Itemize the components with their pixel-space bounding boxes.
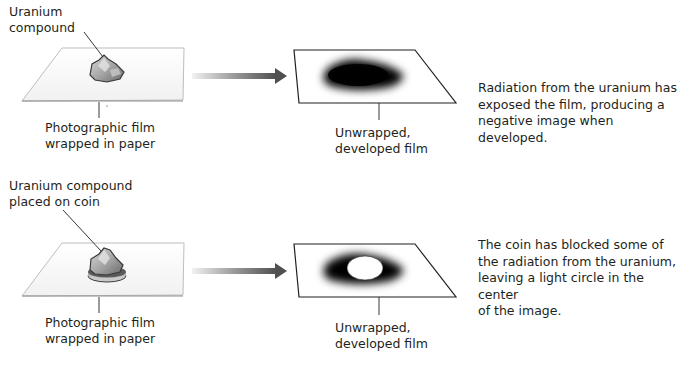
uranium-on-coin-label: Uranium compound placed on coin: [9, 178, 132, 210]
label-line: Unwrapped,: [335, 125, 428, 141]
description-line: the radiation from the uranium,: [478, 254, 683, 271]
row-2-developed-film: [294, 244, 456, 315]
description-line: leaving a light circle in the center: [478, 270, 683, 303]
row-1-wrapped-film: [22, 32, 184, 118]
row-2-wrapped-film: [22, 210, 184, 313]
row-2-arrow: [192, 263, 287, 279]
photographic-film-label: Photographic film wrapped in paper: [44, 315, 156, 347]
description-line: Radiation from the uranium has: [478, 80, 683, 97]
coin-shadow-light-circle: [347, 256, 383, 280]
label-line: Uranium compound: [9, 178, 132, 194]
label-line: Unwrapped,: [335, 320, 428, 336]
row-1-developed-film: [294, 50, 456, 120]
row-1-description: Radiation from the uranium has exposed t…: [478, 80, 683, 146]
label-line: Uranium: [9, 4, 75, 20]
label-line: wrapped in paper: [44, 136, 156, 152]
row-1-arrow: [192, 68, 287, 84]
uranium-compound-label: Uranium compound: [9, 4, 75, 36]
description-line: exposed the film, producing a: [478, 97, 683, 114]
developed-film-label: Unwrapped, developed film: [335, 320, 428, 352]
developed-film-label: Unwrapped, developed film: [335, 125, 428, 157]
label-line: compound: [9, 20, 75, 36]
description-line: The coin has blocked some of: [478, 237, 683, 254]
label-line: developed film: [335, 336, 428, 352]
label-line: developed film: [335, 141, 428, 157]
label-line: placed on coin: [9, 194, 132, 210]
row-2-description: The coin has blocked some of the radiati…: [478, 237, 683, 320]
label-line: Photographic film: [44, 315, 156, 331]
label-line: wrapped in paper: [44, 331, 156, 347]
description-line: of the image.: [478, 303, 683, 320]
photographic-film-label: Photographic film wrapped in paper: [44, 120, 156, 152]
label-line: Photographic film: [44, 120, 156, 136]
description-line: negative image when developed.: [478, 113, 683, 146]
